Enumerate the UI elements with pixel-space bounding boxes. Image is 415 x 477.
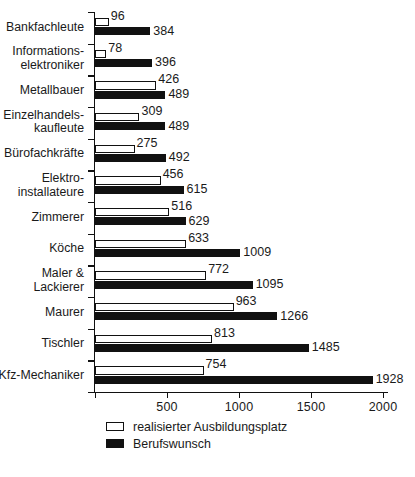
category-label: Informations-elektroniker: [12, 46, 84, 73]
bar-berufswunsch: 615: [95, 186, 184, 194]
y-axis-tick: [88, 12, 95, 13]
bar-value-label: 1266: [280, 309, 308, 323]
bar-realisierter-ausbildungsplatz: 78: [95, 50, 106, 58]
x-axis-tick: [95, 392, 96, 398]
bar-value-label: 492: [169, 150, 190, 164]
chart-category-row: Bürofachkräfte275492: [95, 139, 383, 171]
y-axis-tick: [88, 329, 95, 330]
chart-category-row: Köche6331009: [95, 234, 383, 266]
bar-value-label: 309: [141, 104, 162, 118]
category-label: Zimmerer: [31, 211, 84, 225]
legend-swatch-solid-icon: [106, 439, 124, 448]
bar-realisierter-ausbildungsplatz: 516: [95, 208, 169, 216]
y-axis-tick: [88, 170, 95, 171]
bar-value-label: 615: [187, 182, 208, 196]
bar-berufswunsch: 492: [95, 154, 166, 162]
chart-legend: realisierter Ausbildungsplatz Berufswuns…: [106, 418, 287, 452]
bar-berufswunsch: 1095: [95, 281, 253, 289]
bar-value-label: 275: [137, 136, 158, 150]
chart-category-row: Maurer9631266: [95, 297, 383, 329]
chart-category-row: Metallbauer426489: [95, 75, 383, 107]
category-label: Kfz-Mechaniker: [0, 369, 84, 383]
bar-value-label: 963: [236, 294, 257, 308]
category-label: Tischler: [41, 338, 84, 352]
y-axis-tick: [88, 202, 95, 203]
category-label: Einzelhandels-kaufleute: [3, 109, 84, 136]
category-label: Bankfachleute: [6, 21, 84, 35]
y-axis-tick: [88, 234, 95, 235]
chart-category-row: Tischler8131485: [95, 329, 383, 361]
bar-value-label: 384: [153, 24, 174, 38]
bar-berufswunsch: 1928: [95, 376, 373, 384]
bar-value-label: 629: [189, 214, 210, 228]
x-axis-line: [88, 392, 388, 393]
bar-berufswunsch: 396: [95, 59, 152, 67]
bar-value-label: 426: [158, 72, 179, 86]
bar-value-label: 633: [188, 231, 209, 245]
x-axis-tick-label: 1000: [225, 400, 254, 414]
x-axis-tick-label: 500: [156, 400, 177, 414]
bar-realisierter-ausbildungsplatz: 813: [95, 335, 212, 343]
category-label: Maler &Lackierer: [33, 268, 84, 295]
category-label: Bürofachkräfte: [4, 148, 84, 162]
y-axis-tick: [88, 44, 95, 45]
legend-swatch-open-icon: [106, 422, 124, 431]
category-label: Elektro-installateure: [18, 173, 84, 200]
legend-item-berufswunsch: Berufswunsch: [106, 435, 287, 452]
chart-category-row: Kfz-Mechaniker7541928: [95, 360, 383, 392]
y-axis-tick: [88, 392, 95, 393]
bar-value-label: 1009: [243, 245, 271, 259]
bar-berufswunsch: 1485: [95, 344, 309, 352]
bar-value-label: 489: [168, 119, 189, 133]
bar-berufswunsch: 489: [95, 91, 165, 99]
legend-label: realisierter Ausbildungsplatz: [133, 420, 287, 434]
plot-area: 500100015002000Bankfachleute96384Informa…: [95, 12, 383, 392]
bar-value-label: 516: [171, 199, 192, 213]
y-axis-tick: [88, 107, 95, 108]
bar-berufswunsch: 489: [95, 122, 165, 130]
bar-chart: 500100015002000Bankfachleute96384Informa…: [0, 0, 415, 477]
x-axis-tick: [383, 392, 384, 398]
bar-realisierter-ausbildungsplatz: 633: [95, 240, 186, 248]
bar-realisierter-ausbildungsplatz: 772: [95, 271, 206, 279]
y-axis-tick: [88, 297, 95, 298]
bar-berufswunsch: 1266: [95, 312, 277, 320]
chart-category-row: Einzelhandels-kaufleute309489: [95, 107, 383, 139]
category-label: Maurer: [45, 306, 84, 320]
bar-value-label: 1485: [312, 340, 340, 354]
x-axis-tick: [239, 392, 240, 398]
bar-realisierter-ausbildungsplatz: 426: [95, 81, 156, 89]
bar-realisierter-ausbildungsplatz: 309: [95, 113, 139, 121]
chart-category-row: Informations-elektroniker78396: [95, 44, 383, 76]
bar-value-label: 78: [108, 41, 122, 55]
bar-realisierter-ausbildungsplatz: 96: [95, 18, 109, 26]
bar-realisierter-ausbildungsplatz: 754: [95, 366, 204, 374]
bar-value-label: 754: [206, 357, 227, 371]
x-axis-tick-label: 2000: [369, 400, 398, 414]
chart-category-row: Zimmerer516629: [95, 202, 383, 234]
legend-item-realisierter-ausbildungsplatz: realisierter Ausbildungsplatz: [106, 418, 287, 435]
bar-value-label: 489: [168, 87, 189, 101]
legend-label: Berufswunsch: [133, 437, 211, 451]
bar-value-label: 396: [155, 55, 176, 69]
bar-value-label: 96: [111, 9, 125, 23]
category-label: Metallbauer: [20, 84, 84, 98]
chart-category-row: Bankfachleute96384: [95, 12, 383, 44]
x-axis-tick-label: 1500: [297, 400, 326, 414]
bar-value-label: 1928: [376, 372, 404, 386]
bar-berufswunsch: 384: [95, 27, 150, 35]
bar-value-label: 1095: [256, 277, 284, 291]
chart-category-row: Elektro-installateure456615: [95, 170, 383, 202]
bar-realisierter-ausbildungsplatz: 963: [95, 303, 234, 311]
category-label: Köche: [49, 243, 84, 257]
y-axis-tick: [88, 360, 95, 361]
x-axis-tick: [311, 392, 312, 398]
chart-category-row: Maler &Lackierer7721095: [95, 265, 383, 297]
bar-berufswunsch: 629: [95, 217, 186, 225]
x-axis-tick: [167, 392, 168, 398]
bar-value-label: 813: [214, 326, 235, 340]
y-axis-tick: [88, 139, 95, 140]
bar-realisierter-ausbildungsplatz: 275: [95, 145, 135, 153]
bar-value-label: 772: [208, 262, 229, 276]
bar-realisierter-ausbildungsplatz: 456: [95, 176, 161, 184]
